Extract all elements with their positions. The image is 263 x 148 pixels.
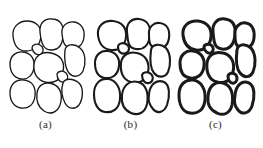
grain xyxy=(180,51,204,78)
grain-microstructure-figure: (a) (b) (c) xyxy=(0,0,263,148)
grain xyxy=(10,80,35,108)
grain xyxy=(204,44,213,53)
grain xyxy=(234,82,254,113)
panel-a-initial-stage xyxy=(4,14,87,118)
grain xyxy=(37,83,62,113)
grain xyxy=(236,45,255,77)
panel-c-drawing xyxy=(174,14,257,118)
caption-panel-c: (c) xyxy=(174,118,257,130)
grain xyxy=(122,82,148,115)
grain xyxy=(149,81,169,112)
grain xyxy=(94,79,120,112)
grain xyxy=(213,19,235,49)
grain xyxy=(127,19,150,49)
caption-panel-b: (b) xyxy=(89,118,172,130)
panel-b-intermediate-stage xyxy=(89,14,172,118)
grain xyxy=(10,52,34,79)
grain xyxy=(65,45,85,76)
grain xyxy=(208,83,233,115)
caption-panel-a: (a) xyxy=(4,118,87,130)
panel-a-drawing xyxy=(4,14,87,118)
grain xyxy=(179,80,205,113)
grain xyxy=(142,72,153,83)
panel-b-drawing xyxy=(89,14,172,118)
grain xyxy=(228,73,237,83)
grain xyxy=(95,51,119,78)
caption-row: (a) (b) (c) xyxy=(0,118,263,138)
grain xyxy=(118,43,129,53)
grain xyxy=(40,19,63,50)
panel-c-final-stage xyxy=(174,14,257,118)
grain xyxy=(62,79,82,108)
grain xyxy=(150,45,170,77)
